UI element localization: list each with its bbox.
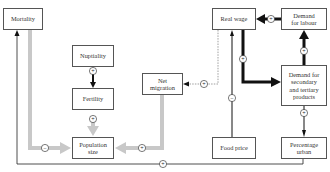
node-fertility: Fertility (72, 88, 114, 110)
sign-nuptiality-fertility: + (89, 67, 96, 74)
node-label: Net migration (150, 77, 175, 91)
node-net-migration: Net migration (142, 73, 183, 95)
node-real-wage: Real wage (212, 8, 256, 30)
node-label: Demand for secondary and tertiary produc… (289, 71, 320, 100)
node-demand-for-products: Demand for secondary and tertiary produc… (281, 65, 327, 106)
edge-foodprice-to-wage (230, 30, 234, 137)
node-label: Percentage urban (290, 141, 318, 155)
edge-migration-to-population (115, 95, 162, 154)
sign-labour-wage: + (267, 15, 274, 22)
sign-foodprice-wage: − (228, 94, 235, 101)
sign-migration-population: + (138, 144, 145, 151)
node-percentage-urban: Percentage urban (281, 137, 327, 159)
node-nuptiality: Nuptiality (72, 45, 114, 67)
sign-wage-migration: + (200, 80, 207, 87)
edge-wage-to-migration (183, 30, 218, 87)
sign-mortality-population: − (41, 144, 48, 151)
sign-urban-mortality: + (159, 160, 166, 167)
causal-loop-diagram: + + − + + + + (0, 0, 330, 172)
edge-mortality-to-population (30, 30, 71, 154)
node-demand-for-labour: Demand for labour (281, 8, 327, 30)
node-label: Nuptiality (80, 52, 106, 59)
node-label: Demand for labour (291, 12, 316, 26)
node-label: Real wage (221, 15, 248, 22)
node-population-size: Population size (72, 137, 114, 159)
node-label: Population size (79, 141, 107, 155)
node-food-price: Food price (212, 137, 256, 159)
node-label: Food price (220, 144, 248, 151)
sign-wage-products: + (239, 55, 246, 62)
edge-wage-to-products (243, 30, 281, 87)
node-mortality: Mortality (3, 8, 43, 30)
sign-products-urban: + (300, 109, 307, 116)
node-label: Fertility (83, 95, 104, 102)
sign-fertility-population: + (89, 115, 96, 122)
edge-nuptiality-to-fertility (90, 74, 96, 88)
edge-urban-to-mortality (15, 30, 304, 164)
node-label: Mortality (11, 15, 35, 22)
sign-products-labour: + (300, 47, 307, 54)
